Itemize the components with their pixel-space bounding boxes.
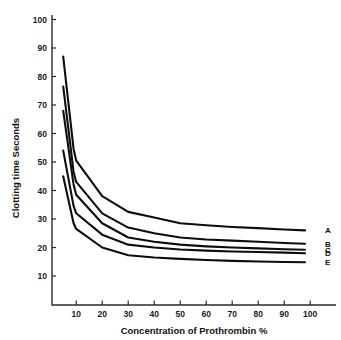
x-tick-label: 100 xyxy=(303,309,317,319)
y-tick-label: 60 xyxy=(38,129,48,139)
y-tick-label: 90 xyxy=(38,43,48,53)
x-tick-label: 70 xyxy=(227,309,237,319)
x-tick-label: 20 xyxy=(97,309,107,319)
y-tick-label: 80 xyxy=(38,72,48,82)
y-tick-label: 50 xyxy=(38,157,48,167)
y-tick-label: 10 xyxy=(38,271,48,281)
x-tick-label: 40 xyxy=(149,309,159,319)
series-label-d: D xyxy=(325,249,331,258)
x-tick-label: 60 xyxy=(201,309,211,319)
series-line-a xyxy=(63,57,305,231)
y-tick-label: 20 xyxy=(38,243,48,253)
line-chart: 100 90 80 70 60 50 40 30 20 10 10 xyxy=(0,0,341,340)
x-tick-label: 90 xyxy=(279,309,289,319)
series-label-a: A xyxy=(325,226,331,235)
y-tick-label: 100 xyxy=(33,15,47,25)
y-tick-label: 70 xyxy=(38,100,48,110)
x-axis-title: Concentration of Prothrombin % xyxy=(121,325,268,336)
y-tick-labels: 100 90 80 70 60 50 40 30 20 10 xyxy=(33,15,47,282)
chart-figure: 100 90 80 70 60 50 40 30 20 10 10 xyxy=(0,0,341,340)
data-series-group xyxy=(63,57,305,263)
x-tick-labels: 10 20 30 40 50 60 70 80 90 100 xyxy=(71,309,317,319)
x-tick-label: 80 xyxy=(253,309,263,319)
x-tick-label: 50 xyxy=(175,309,185,319)
series-end-labels: A B C D E xyxy=(325,226,331,267)
x-tick-label: 30 xyxy=(123,309,133,319)
x-tick-label: 10 xyxy=(71,309,81,319)
series-label-e: E xyxy=(325,258,331,267)
y-tick-label: 30 xyxy=(38,214,48,224)
y-axis-title: Clotting time Seconds xyxy=(10,118,21,218)
y-tick-label: 40 xyxy=(38,186,48,196)
